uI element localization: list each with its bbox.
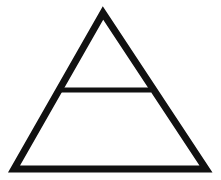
triangle-bar-icon [0,0,221,180]
diagram-canvas [0,0,221,180]
